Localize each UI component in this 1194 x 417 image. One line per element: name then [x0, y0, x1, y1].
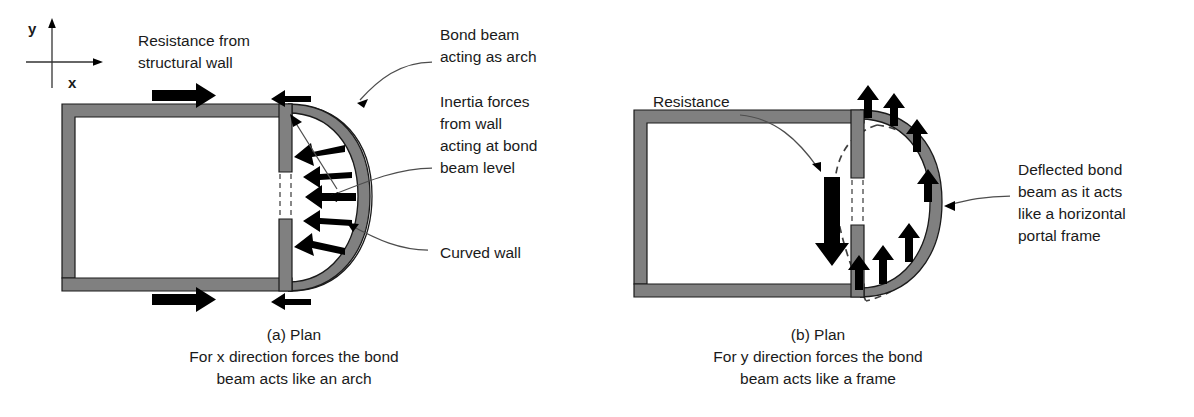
uplift-arrow-6	[872, 245, 894, 284]
caption-a-line1: (a) Plan	[267, 326, 321, 343]
rect-wall-right-lower	[279, 219, 292, 291]
label-deflected-line2: beam as it acts	[1018, 183, 1122, 200]
axis-arrow-right-icon	[93, 58, 103, 66]
leader-deflected-b	[948, 196, 1010, 205]
label-deflected-line4: portal frame	[1018, 227, 1101, 244]
axis-indicator: y x	[26, 18, 103, 91]
rect-wall-bottom-b	[634, 284, 864, 297]
label-bond-beam-line1: Bond beam	[440, 26, 519, 43]
figure-root: y x	[0, 0, 1194, 417]
inertia-arrow-1	[294, 143, 345, 166]
inertia-arrow-4	[303, 210, 352, 232]
caption-a-line3: beam acts like an arch	[216, 370, 371, 387]
rect-wall-bottom	[62, 278, 292, 291]
leader-deflected-b-arrowhead	[944, 201, 955, 211]
panel-b: Resistance Deflected bond beam as it act…	[634, 85, 1126, 387]
label-deflected-line3: like a horizontal	[1018, 205, 1126, 222]
axis-arrow-up-icon	[48, 18, 56, 28]
label-deflected-line1: Deflected bond	[1018, 161, 1122, 178]
inertia-arrow-5	[294, 233, 345, 256]
leader-bond-beam	[360, 62, 432, 100]
label-inertia-line3: acting at bond	[440, 137, 537, 154]
caption-b-line1: (b) Plan	[791, 326, 845, 343]
label-resistance-line1: Resistance from	[138, 32, 250, 49]
caption-a-line2: For x direction forces the bond	[189, 348, 398, 365]
caption-b-line2: For y direction forces the bond	[713, 348, 922, 365]
label-inertia-line2: from wall	[440, 115, 502, 132]
label-curved-wall: Curved wall	[440, 244, 521, 261]
leader-resistance-b-arrowhead	[812, 162, 821, 172]
label-bond-beam-line2: acting as arch	[440, 48, 537, 65]
inertia-arrow-2	[303, 166, 352, 188]
resistance-arrow-down-b	[815, 177, 849, 266]
label-resistance-b: Resistance	[653, 93, 730, 110]
axis-label-x: x	[68, 74, 77, 91]
rect-wall-top-left	[62, 104, 292, 278]
axis-label-y: y	[28, 20, 37, 37]
label-inertia-line4: beam level	[440, 159, 515, 176]
leader-inertia	[330, 168, 432, 196]
leader-bond-beam-arrowhead	[357, 99, 368, 108]
label-resistance-line2: structural wall	[138, 54, 233, 71]
reaction-arrow-bottom	[271, 293, 311, 310]
label-inertia-line1: Inertia forces	[440, 93, 530, 110]
rect-wall-right-upper-b	[851, 110, 864, 178]
caption-b-line3: beam acts like a frame	[740, 370, 896, 387]
panel-a: Resistance from structural wall Bond bea…	[62, 26, 537, 387]
